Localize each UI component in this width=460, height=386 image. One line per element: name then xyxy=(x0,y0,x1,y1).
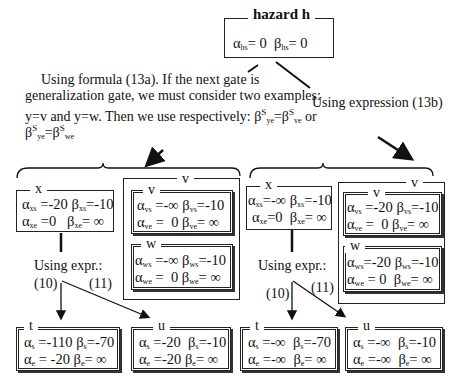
right-t-label: t xyxy=(250,319,264,333)
right-v-group-label: v xyxy=(406,176,423,190)
right-w-label: w xyxy=(345,239,365,253)
left-note-line4: βSye=βSwe xyxy=(25,120,74,145)
left-x-r2: αxe =0 βxe= ∞ xyxy=(22,213,104,234)
left-w-r2: αwe = 0 βwe= ∞ xyxy=(135,269,221,290)
right-w-r2: αwe = 0 βwe= ∞ xyxy=(347,271,433,292)
right-t-r2: αe =-∞ βe= ∞ xyxy=(248,351,326,372)
left-u-node: αs =-20 βs=-10 αe =-20 βe= ∞ xyxy=(131,327,231,371)
right-x-label: x xyxy=(260,178,277,192)
hazard-node: αhs= 0 βhs= 0 xyxy=(224,18,334,58)
right-expr-label: Using expr.: xyxy=(258,258,326,274)
left-x-node: αxs =-20 βxs=-10 αxe =0 βxe= ∞ xyxy=(16,190,114,232)
right-x-r2: αxe=0 βxe= ∞ xyxy=(252,209,327,230)
left-t-node: αs =-110 βs=-70 αe = -20 βe= ∞ xyxy=(16,327,120,371)
left-expr-11: (11) xyxy=(89,276,112,292)
left-u-r2: αe =-20 βe= ∞ xyxy=(139,351,218,372)
left-note-line2: generalization gate, we must consider tw… xyxy=(25,88,321,104)
hazard-values: αhs= 0 βhs= 0 xyxy=(233,35,308,56)
right-u-label: u xyxy=(358,319,375,333)
left-u-label: u xyxy=(153,319,170,333)
left-t-r2: αe = -20 βe= ∞ xyxy=(24,351,107,372)
left-x-label: x xyxy=(30,182,47,196)
right-v-r2: αve = 0 βve= ∞ xyxy=(347,216,429,237)
left-expr-label: Using expr.: xyxy=(34,258,102,274)
left-v-group-label: v xyxy=(177,172,194,186)
left-v-r2: αve = 0 βve= ∞ xyxy=(137,214,219,235)
left-t-label: t xyxy=(24,319,38,333)
right-x-node: αxs=-∞ βxs=-10 αxe=0 βxe= ∞ xyxy=(246,186,332,230)
left-expr-10: (10) xyxy=(34,276,57,292)
left-note-line1: Using formula (13a). If the next gate is xyxy=(41,72,260,88)
right-note: Using expression (13b) xyxy=(312,95,443,111)
right-u-node: αs =-∞ βs=-10 αe =-∞ βe= ∞ xyxy=(345,327,443,371)
right-expr-11: (11) xyxy=(311,280,334,296)
left-v-label: v xyxy=(143,183,160,197)
right-v-label: v xyxy=(368,186,385,200)
right-u-r2: αe =-∞ βe= ∞ xyxy=(353,351,431,372)
right-expr-10: (10) xyxy=(266,286,289,302)
left-w-label: w xyxy=(141,237,161,251)
right-t-node: αs =-∞ βs=-70 αe =-∞ βe= ∞ xyxy=(240,327,338,371)
right-v-node: αvs =-20 βvs=-10 αve = 0 βve= ∞ xyxy=(343,192,442,236)
hazard-title: hazard h xyxy=(248,7,315,21)
